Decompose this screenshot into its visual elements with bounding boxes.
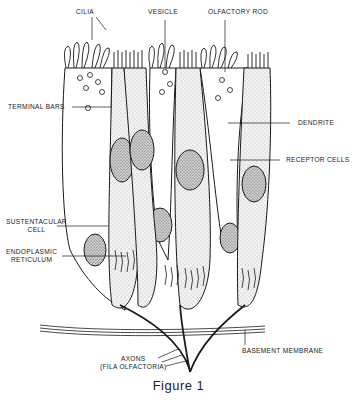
label-endoplasmic-reticulum: ENDOPLASMIC RETICULUM xyxy=(6,248,57,264)
label-sustentacular-line2: CELL xyxy=(6,226,67,234)
figure-caption: Figure 1 xyxy=(0,378,357,393)
cilia-tufts xyxy=(64,42,268,68)
label-sustentacular-cell: SUSTENTACULAR CELL xyxy=(6,218,67,234)
label-vesicle: VESICLE xyxy=(148,8,178,16)
basement-membrane xyxy=(40,325,265,336)
label-axons-line1: AXONS xyxy=(100,355,167,363)
label-dendrite: DENDRITE xyxy=(298,119,334,127)
olfactory-epithelium-diagram xyxy=(0,0,357,401)
label-terminal-bars: TERMINAL BARS xyxy=(8,103,65,111)
label-cilia: CILIA xyxy=(76,8,94,16)
label-basement-membrane: BASEMENT MEMBRANE xyxy=(242,347,323,355)
label-receptor-cells: RECEPTOR CELLS xyxy=(286,156,349,164)
label-endoplasmic-line1: ENDOPLASMIC xyxy=(6,248,57,256)
label-sustentacular-line1: SUSTENTACULAR xyxy=(6,218,67,226)
label-olfactory-rod: OLFACTORY ROD xyxy=(208,8,268,16)
label-axons-line2: (FILA OLFACTORIA) xyxy=(100,363,167,371)
label-endoplasmic-line2: RETICULUM xyxy=(6,256,57,264)
label-axons: AXONS (FILA OLFACTORIA) xyxy=(100,355,167,371)
